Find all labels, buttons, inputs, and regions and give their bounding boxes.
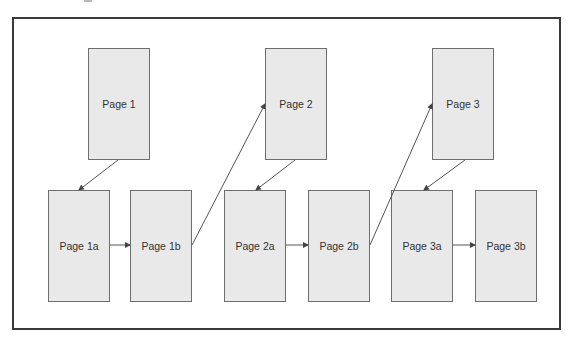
page-label: Page 1b [141, 240, 180, 252]
page-label: Page 3a [402, 240, 441, 252]
page-node-p2a: Page 2a [224, 190, 286, 302]
page-node-p1b: Page 1b [130, 190, 192, 302]
page-node-p3b: Page 3b [475, 190, 537, 302]
page-label: Page 2 [279, 98, 312, 110]
page-label: Page 3 [446, 98, 479, 110]
page-label: Page 1 [102, 98, 135, 110]
page-label: Page 1a [59, 240, 98, 252]
page-label: Page 3b [486, 240, 525, 252]
page-label: Page 2a [235, 240, 274, 252]
page-label: Page 2b [319, 240, 358, 252]
page-node-p3: Page 3 [432, 48, 494, 160]
page-node-p3a: Page 3a [391, 190, 453, 302]
page-node-p1a: Page 1a [48, 190, 110, 302]
page-node-p2b: Page 2b [308, 190, 370, 302]
page-node-p1: Page 1 [88, 48, 150, 160]
page-node-p2: Page 2 [265, 48, 327, 160]
scan-artifact [84, 0, 92, 2]
